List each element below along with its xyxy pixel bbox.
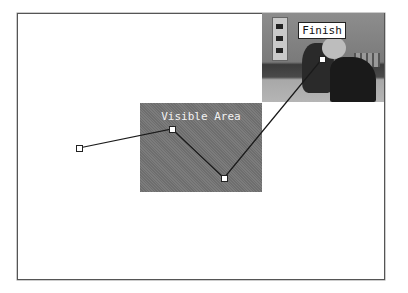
path-point-start[interactable] bbox=[76, 145, 83, 152]
path-point-finish[interactable] bbox=[319, 56, 326, 63]
path-point-2[interactable] bbox=[169, 126, 176, 133]
finish-label: Finish bbox=[298, 22, 346, 39]
path-point-3[interactable] bbox=[221, 175, 228, 182]
motion-path[interactable] bbox=[0, 0, 408, 293]
